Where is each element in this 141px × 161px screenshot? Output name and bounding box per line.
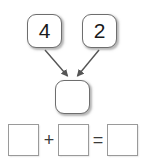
addend-a-box[interactable]: 4 bbox=[27, 14, 62, 48]
equals-sign-icon: = bbox=[89, 124, 107, 156]
equation-blank-3[interactable] bbox=[107, 124, 138, 156]
equation-blank-2[interactable] bbox=[58, 124, 89, 156]
addend-b-value: 2 bbox=[94, 20, 106, 42]
arrow-from-addend-b bbox=[78, 50, 100, 76]
addend-b-box[interactable]: 2 bbox=[82, 14, 117, 48]
arrow-from-addend-a bbox=[45, 50, 68, 76]
equation-blank-1[interactable] bbox=[8, 124, 39, 156]
plus-sign-icon: + bbox=[40, 124, 58, 156]
addend-a-value: 4 bbox=[39, 20, 51, 42]
number-bond-worksheet: 4 2 + = bbox=[0, 0, 141, 161]
equation-row: + = bbox=[0, 122, 141, 159]
sum-answer-box[interactable] bbox=[55, 80, 90, 114]
